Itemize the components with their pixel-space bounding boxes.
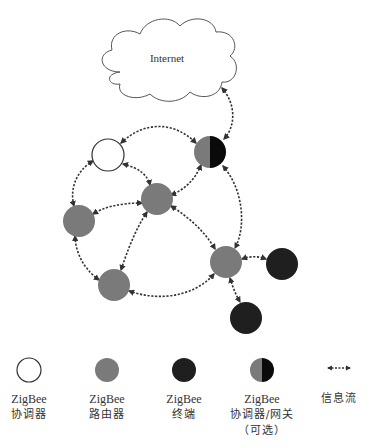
router-node-center[interactable] <box>141 183 173 215</box>
router-node-right[interactable] <box>210 246 242 278</box>
link-coordinator-left <box>73 161 93 206</box>
legend-coordinator-icon <box>17 358 41 382</box>
legend-gateway-icon <box>250 358 274 382</box>
legend-symbols <box>17 358 350 382</box>
link-center-right <box>171 206 215 249</box>
link-right-end-bottom <box>230 278 240 302</box>
end-device-node-bottom[interactable] <box>230 302 262 334</box>
link-left-lower <box>75 236 99 280</box>
zigbee-network-diagram: Internet <box>0 0 368 447</box>
link-internet-gateway <box>222 88 233 139</box>
link-right-end-right <box>242 257 266 259</box>
link-coordinator-center <box>123 164 150 185</box>
link-gateway-right <box>223 166 242 248</box>
internet-label: Internet <box>150 52 184 64</box>
internet-cloud: Internet <box>102 19 236 101</box>
legend-router-icon <box>95 358 119 382</box>
coordinator-node[interactable] <box>92 139 124 171</box>
link-gateway-center <box>171 165 201 195</box>
legend-label-end-device: ZigBee 终端 <box>139 391 229 423</box>
router-node-left[interactable] <box>63 205 95 237</box>
link-center-left <box>93 203 142 214</box>
link-coordinator-gateway <box>121 126 196 143</box>
nodes <box>63 136 298 334</box>
legend-label-info-flow: 信息流 <box>294 391 368 407</box>
legend-end-device-icon <box>172 358 196 382</box>
router-node-lower[interactable] <box>98 269 130 301</box>
gateway-node[interactable] <box>194 136 226 168</box>
link-center-lower <box>121 212 147 270</box>
end-device-node-right[interactable] <box>266 248 298 280</box>
link-lower-right <box>129 274 214 296</box>
